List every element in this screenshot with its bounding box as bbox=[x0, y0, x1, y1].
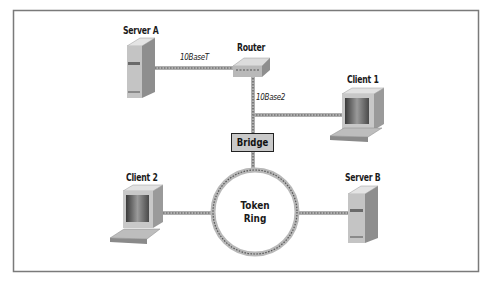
router-label: Router bbox=[237, 41, 265, 53]
token-ring-label: Token Ring bbox=[230, 199, 281, 225]
server-a-label: Server A bbox=[123, 24, 159, 36]
link-10baset-label: 10BaseT bbox=[180, 52, 209, 62]
bridge-label: Bridge bbox=[237, 134, 269, 151]
server-b-icon bbox=[348, 186, 378, 243]
token-ring-label-line2: Ring bbox=[230, 212, 281, 225]
client-1-label: Client 1 bbox=[347, 73, 379, 85]
server-b-label: Server B bbox=[345, 171, 380, 183]
client-2-label: Client 2 bbox=[126, 171, 158, 183]
link-10base2-label: 10Base2 bbox=[256, 92, 285, 102]
bridge-node: Bridge bbox=[231, 133, 274, 152]
server-a-icon bbox=[127, 38, 155, 98]
token-ring-label-line1: Token bbox=[230, 199, 281, 212]
